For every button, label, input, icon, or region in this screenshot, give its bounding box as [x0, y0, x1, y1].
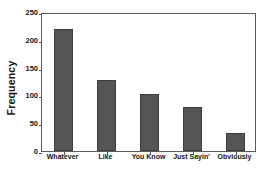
y-tick-label: 50	[30, 120, 38, 128]
y-tick-label: 100	[25, 93, 38, 101]
y-tick-mark	[39, 97, 43, 98]
y-tick-mark	[39, 42, 43, 43]
bar-chart: Frequency 050100150200250 WhateverLikeYo…	[0, 0, 271, 175]
plot-area	[41, 13, 256, 152]
bar	[183, 107, 202, 151]
y-tick-label: 250	[25, 9, 38, 17]
bar	[140, 94, 159, 151]
x-tick-label: Just Sayin'	[173, 153, 210, 160]
y-axis-tick-labels: 050100150200250	[14, 0, 38, 175]
x-tick-label: Like	[98, 153, 112, 160]
plot-inner	[42, 14, 255, 151]
y-tick-label: 150	[25, 65, 38, 73]
y-tick-label: 200	[25, 37, 38, 45]
y-tick-mark	[39, 70, 43, 71]
x-axis-tick-labels: WhateverLikeYou KnowJust Sayin'Obviously	[41, 153, 256, 167]
bar	[97, 80, 116, 151]
bar	[54, 29, 73, 151]
x-tick-label: Whatever	[47, 153, 79, 160]
x-tick-label: You Know	[132, 153, 166, 160]
bar	[226, 133, 245, 151]
y-tick-mark	[39, 125, 43, 126]
y-tick-mark	[39, 14, 43, 15]
y-tick-label: 0	[34, 148, 38, 156]
x-tick-label: Obviously	[218, 153, 252, 160]
